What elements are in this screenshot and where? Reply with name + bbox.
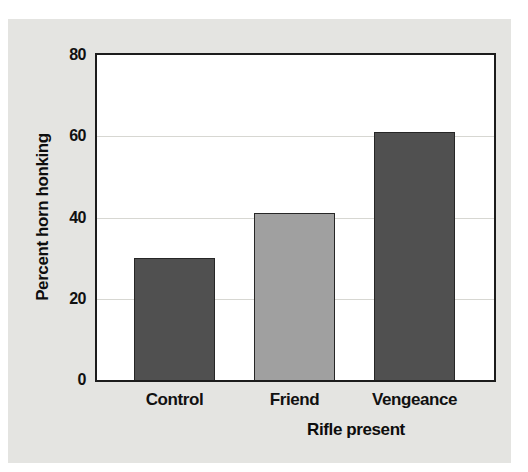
x-axis-title: Rifle present (266, 420, 446, 440)
figure-panel: Percent horn honking 020406080 ControlFr… (8, 19, 511, 463)
ytick-80: 80 (42, 45, 86, 65)
ytick-20: 20 (42, 289, 86, 309)
xcat-vengeance: Vengeance (350, 390, 480, 410)
plot-area (95, 53, 496, 382)
figure: Percent horn honking 020406080 ControlFr… (0, 0, 528, 472)
ytick-0: 0 (42, 370, 86, 390)
ytick-60: 60 (42, 126, 86, 146)
ytick-40: 40 (42, 208, 86, 228)
bar-friend (254, 213, 335, 380)
xcat-control: Control (110, 390, 240, 410)
bar-vengeance (374, 132, 455, 380)
bar-control (134, 258, 215, 380)
xcat-friend: Friend (230, 390, 360, 410)
